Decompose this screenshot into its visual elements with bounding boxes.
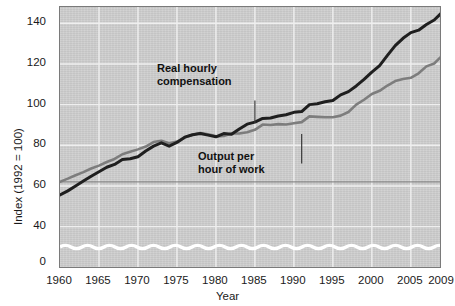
x-tick-label: 1960: [46, 274, 72, 286]
annotation-real-hourly-compensation: Real hourly compensation: [157, 62, 232, 88]
x-tick-label: 2005: [397, 274, 423, 286]
x-tick-label: 1980: [202, 274, 228, 286]
y-tick-label: 80: [0, 138, 53, 150]
y-tick-label: 0: [0, 256, 53, 268]
y-tick-label: 60: [0, 179, 53, 191]
plot-area: [59, 6, 441, 268]
y-axis-title: Index (1992 = 100): [12, 128, 24, 225]
x-tick-label: 1970: [124, 274, 150, 286]
annotation-output-per-hour-of-work: Output per hour of work: [198, 150, 265, 176]
x-tick-label: 1975: [163, 274, 189, 286]
x-tick-label: 1995: [319, 274, 345, 286]
chart-figure: 0406080100120140 19601965197019751980198…: [0, 0, 455, 306]
y-tick-label: 120: [0, 57, 53, 69]
y-tick-label: 40: [0, 220, 53, 232]
x-tick-label: 1965: [85, 274, 111, 286]
plot-canvas: [60, 7, 441, 268]
x-tick-label: 1990: [280, 274, 306, 286]
axis-break-wave: [60, 245, 441, 248]
x-axis-title: Year: [0, 290, 455, 302]
annotation-line-1: Real hourly: [157, 62, 232, 75]
y-tick-label: 100: [0, 98, 53, 110]
x-tick-label: 2009: [428, 274, 454, 286]
annotation-line-1: Output per: [198, 150, 265, 163]
annotation-line-2: compensation: [157, 75, 232, 88]
annotation-line-2: hour of work: [198, 163, 265, 176]
x-tick-label: 1985: [241, 274, 267, 286]
y-tick-label: 140: [0, 16, 53, 28]
y-axis-ticks: 0406080100120140: [0, 0, 53, 306]
x-tick-label: 2000: [358, 274, 384, 286]
